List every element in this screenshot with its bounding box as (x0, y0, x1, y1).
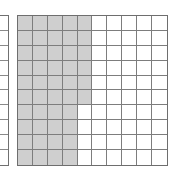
grid-cell-r6-c4 (63, 90, 78, 105)
grid-cell-r1-c6 (92, 16, 107, 31)
grid-cell-r3-c2 (33, 46, 48, 61)
grid-cell-r2-c1 (18, 31, 33, 46)
grid-cell-r8-c10 (152, 120, 167, 135)
grid-cell-r4-c2 (33, 61, 48, 76)
grid-cell-r4-c8 (122, 61, 137, 76)
grid-cell-r3-c6 (92, 46, 107, 61)
grid-cell-r9-c6 (92, 135, 107, 150)
grid-cell-r7-c3 (48, 105, 63, 120)
grid-cell-r5-c10 (152, 76, 167, 91)
grid-cell-r9-c8 (122, 135, 137, 150)
grid-cell-r10-c9 (137, 150, 152, 165)
grid-cell-r6-c1 (18, 90, 33, 105)
grid-cell-r2-c5 (78, 31, 93, 46)
grid-cell-r3-c10 (152, 46, 167, 61)
grid-cell-r5-c7 (107, 76, 122, 91)
grid-cell-r7-c8 (122, 105, 137, 120)
partial-grid-cell-r5-c10 (0, 76, 8, 91)
grid-cell-r8-c5 (78, 120, 93, 135)
grid-cell-r3-c9 (137, 46, 152, 61)
grid-cell-r8-c8 (122, 120, 137, 135)
grid-cell-r2-c7 (107, 31, 122, 46)
grid-cell-r7-c1 (18, 105, 33, 120)
grid-cell-r9-c10 (152, 135, 167, 150)
grid-cell-r6-c5 (78, 90, 93, 105)
grid-cell-r2-c2 (33, 31, 48, 46)
partial-grid-clip (0, 15, 9, 166)
grid-cell-r5-c1 (18, 76, 33, 91)
grid-cell-r2-c9 (137, 31, 152, 46)
grid-cell-r7-c7 (107, 105, 122, 120)
grid-cell-r2-c6 (92, 31, 107, 46)
grid-cell-r3-c3 (48, 46, 63, 61)
grid-cell-r5-c9 (137, 76, 152, 91)
figure-canvas (0, 0, 181, 180)
grid-cell-r6-c3 (48, 90, 63, 105)
grid-cell-r7-c9 (137, 105, 152, 120)
grid-cell-r6-c6 (92, 90, 107, 105)
grid-cell-r4-c4 (63, 61, 78, 76)
grid-cell-r5-c5 (78, 76, 93, 91)
grid-cell-r4-c10 (152, 61, 167, 76)
grid-cell-r10-c1 (18, 150, 33, 165)
grid-cell-r8-c3 (48, 120, 63, 135)
grid-cell-r3-c8 (122, 46, 137, 61)
partial-hundredths-grid (0, 15, 9, 166)
grid-cell-r2-c3 (48, 31, 63, 46)
grid-cell-r1-c7 (107, 16, 122, 31)
grid-cell-r1-c8 (122, 16, 137, 31)
grid-cell-r8-c1 (18, 120, 33, 135)
grid-cell-r6-c9 (137, 90, 152, 105)
partial-grid-cell-r1-c10 (0, 16, 8, 31)
grid-cell-r8-c2 (33, 120, 48, 135)
partial-grid-cell-r8-c10 (0, 120, 8, 135)
grid-cell-r8-c9 (137, 120, 152, 135)
grid-cell-r4-c9 (137, 61, 152, 76)
grid-cell-r1-c1 (18, 16, 33, 31)
grid-cell-r1-c4 (63, 16, 78, 31)
grid-cell-r3-c4 (63, 46, 78, 61)
grid-cell-r4-c5 (78, 61, 93, 76)
grid-cell-r8-c7 (107, 120, 122, 135)
grid-cell-r5-c8 (122, 76, 137, 91)
grid-cell-r7-c10 (152, 105, 167, 120)
grid-cell-r10-c7 (107, 150, 122, 165)
grid-cell-r4-c1 (18, 61, 33, 76)
grid-cell-r10-c10 (152, 150, 167, 165)
grid-cell-r10-c8 (122, 150, 137, 165)
grid-cell-r1-c5 (78, 16, 93, 31)
grid-cell-r9-c1 (18, 135, 33, 150)
grid-cell-r9-c3 (48, 135, 63, 150)
grid-cell-r6-c10 (152, 90, 167, 105)
grid-cell-r10-c4 (63, 150, 78, 165)
partial-grid-cell-r3-c10 (0, 46, 8, 61)
grid-cell-r2-c4 (63, 31, 78, 46)
grid-cell-r8-c6 (92, 120, 107, 135)
grid-cell-r9-c4 (63, 135, 78, 150)
grid-cell-r4-c6 (92, 61, 107, 76)
grid-cell-r2-c10 (152, 31, 167, 46)
grid-cell-r6-c2 (33, 90, 48, 105)
grid-cell-r10-c2 (33, 150, 48, 165)
grid-cell-r2-c8 (122, 31, 137, 46)
partial-grid-cell-r2-c10 (0, 31, 8, 46)
grid-cell-r3-c1 (18, 46, 33, 61)
grid-cell-r6-c8 (122, 90, 137, 105)
grid-cell-r9-c7 (107, 135, 122, 150)
grid-cell-r4-c7 (107, 61, 122, 76)
grid-cell-r3-c7 (107, 46, 122, 61)
partial-grid-cell-r9-c10 (0, 135, 8, 150)
partial-grid-cell-r7-c10 (0, 105, 8, 120)
hundredths-grid (17, 15, 168, 166)
grid-cell-r5-c6 (92, 76, 107, 91)
grid-cell-r3-c5 (78, 46, 93, 61)
grid-cell-r9-c2 (33, 135, 48, 150)
grid-cell-r10-c3 (48, 150, 63, 165)
partial-grid-cell-r4-c10 (0, 61, 8, 76)
grid-cell-r1-c3 (48, 16, 63, 31)
grid-cell-r7-c2 (33, 105, 48, 120)
partial-grid-cell-r6-c10 (0, 90, 8, 105)
grid-cell-r7-c4 (63, 105, 78, 120)
grid-cell-r9-c5 (78, 135, 93, 150)
grid-cell-r6-c7 (107, 90, 122, 105)
